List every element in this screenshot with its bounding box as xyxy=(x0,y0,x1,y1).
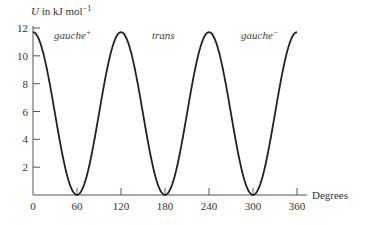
y-tick-label: 4 xyxy=(23,133,29,145)
conformer-label: gauche− xyxy=(241,28,278,41)
conformer-annotations: gauche+transgauche− xyxy=(54,28,278,41)
y-tick-label: 10 xyxy=(17,50,29,62)
y-tick-label: 6 xyxy=(23,106,29,118)
conformer-label: gauche+ xyxy=(54,28,91,41)
x-tick-label: 180 xyxy=(157,200,174,212)
x-tick-label: 60 xyxy=(72,200,84,212)
energy-curve xyxy=(33,32,297,195)
x-tick-label: 0 xyxy=(30,200,36,212)
y-tick-label: 8 xyxy=(23,78,29,90)
x-tick-label: 120 xyxy=(113,200,130,212)
x-axis-label: Degrees xyxy=(312,189,348,201)
y-ticks: 24681012 xyxy=(17,22,40,173)
x-tick-label: 360 xyxy=(289,200,306,212)
torsional-energy-chart: U in kJ mol−1 24681012 06012018024030036… xyxy=(0,0,374,225)
y-axis-label: U in kJ mol−1 xyxy=(31,4,91,17)
x-tick-label: 300 xyxy=(245,200,262,212)
conformer-label: trans xyxy=(152,29,175,41)
x-tick-label: 240 xyxy=(201,200,218,212)
y-tick-label: 2 xyxy=(23,161,29,173)
y-tick-label: 12 xyxy=(17,22,28,34)
